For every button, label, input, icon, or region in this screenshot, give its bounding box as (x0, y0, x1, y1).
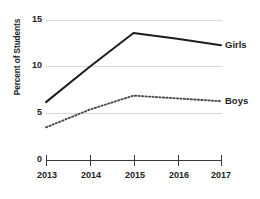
x-tick-label-2015: 2015 (115, 170, 155, 180)
x-tick-2013 (46, 155, 47, 166)
y-tick-label-10: 10 (20, 61, 42, 70)
series-line-girls (46, 33, 221, 102)
x-tick-2014 (90, 155, 91, 166)
x-tick-2015 (134, 155, 135, 166)
x-tick-2017 (221, 155, 222, 166)
series-label-boys: Boys (225, 95, 248, 106)
series-line-boys (46, 96, 221, 128)
x-tick-label-2013: 2013 (27, 170, 67, 180)
series-label-girls: Girls (225, 39, 247, 50)
x-tick-label-2017: 2017 (201, 170, 241, 180)
y-tick-label-15: 15 (20, 15, 42, 24)
y-tick-label-5: 5 (20, 108, 42, 117)
x-tick-label-2014: 2014 (71, 170, 111, 180)
x-tick-2016 (178, 155, 179, 166)
y-tick-label-0: 0 (20, 155, 42, 164)
x-tick-label-2016: 2016 (159, 170, 199, 180)
line-chart: Percent of Students 15 10 5 0 2013 2014 … (0, 0, 260, 199)
